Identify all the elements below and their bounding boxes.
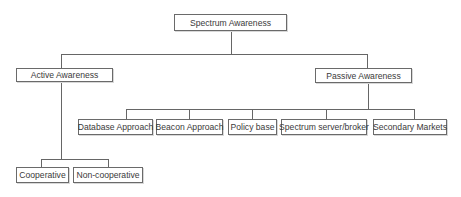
node-passive-awareness: Passive Awareness bbox=[315, 68, 412, 83]
node-active-awareness: Active Awareness bbox=[16, 68, 113, 82]
connector-policy bbox=[252, 109, 253, 119]
node-secondary-markets: Secondary Markets bbox=[373, 119, 447, 135]
connector-broker bbox=[326, 109, 327, 119]
node-non-cooperative: Non-cooperative bbox=[73, 167, 143, 183]
connector-active-children-bar bbox=[41, 159, 109, 160]
node-spectrum-awareness: Spectrum Awareness bbox=[174, 14, 287, 31]
connector-passive-up bbox=[367, 54, 368, 68]
node-database-approach: Database Approach bbox=[78, 119, 153, 135]
connector-passive-down bbox=[368, 82, 369, 109]
connector-cooperative bbox=[41, 159, 42, 167]
node-policy-base: Policy base bbox=[228, 119, 277, 135]
node-cooperative: Cooperative bbox=[16, 167, 69, 183]
node-spectrum-server-broker: Spectrum server/broker bbox=[281, 119, 367, 135]
connector-beacon bbox=[189, 109, 190, 119]
connector-database bbox=[126, 109, 127, 119]
connector-active-down bbox=[61, 81, 62, 159]
connector-passive-children-bar bbox=[126, 109, 415, 110]
connector-level1-bar bbox=[61, 54, 368, 55]
connector-secondary bbox=[414, 109, 415, 119]
node-beacon-approach: Beacon Approach bbox=[156, 119, 223, 135]
connector-non-cooperative bbox=[108, 159, 109, 167]
connector-root-down bbox=[231, 30, 232, 54]
connector-active-up bbox=[61, 54, 62, 68]
